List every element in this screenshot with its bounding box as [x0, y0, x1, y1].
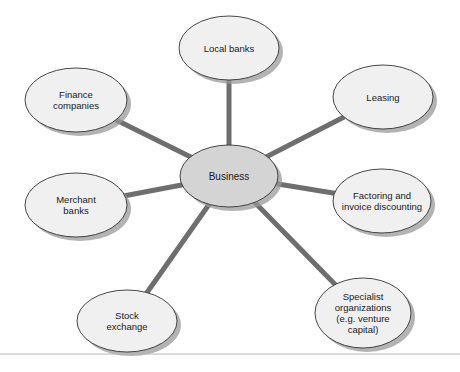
node-label-merchant-banks: Merchant banks	[25, 173, 127, 237]
node-label-specialist-organizations: Specialist organizations (e.g. venture c…	[315, 278, 411, 348]
node-label-factoring: Factoring and invoice discounting	[333, 169, 431, 233]
node-label-leasing: Leasing	[333, 65, 433, 129]
node-label-local-banks: Local banks	[179, 16, 279, 80]
center-node-label: Business	[180, 145, 278, 207]
node-label-stock-exchange: Stock exchange	[77, 290, 177, 352]
diagram-canvas: Business Local banks Finance companies L…	[0, 0, 460, 372]
node-label-finance-companies: Finance companies	[25, 68, 127, 132]
